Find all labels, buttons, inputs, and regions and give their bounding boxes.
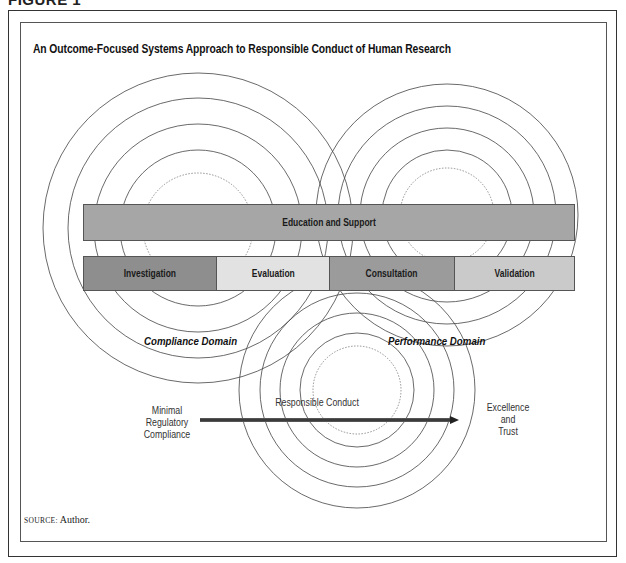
source-text: Author. [60,514,90,525]
source-note: SOURCE: Author. [24,514,90,525]
source-prefix: SOURCE: [24,516,58,525]
continuum-arrow [0,0,626,563]
arrowhead-icon [450,416,459,424]
